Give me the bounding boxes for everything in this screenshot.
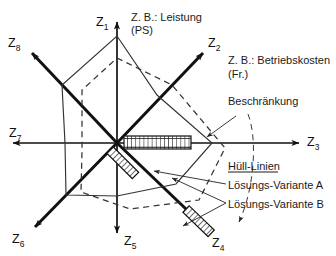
svg-text:Z6: Z6	[12, 232, 25, 249]
leader-beschraenkung	[207, 116, 236, 137]
svg-text:Z7: Z7	[9, 126, 22, 143]
axis-sub-z1: 1	[104, 22, 109, 32]
axis-sub-z3: 3	[315, 142, 320, 152]
annotation-huell-linien: Hüll-Linien	[228, 160, 280, 172]
annotation-variante-a: Lösungs-Variante A	[228, 179, 324, 191]
svg-text:Z3: Z3	[307, 135, 320, 152]
star-diagram-figure: Z1 Z2 Z3 Z4 Z5 Z6 Z7 Z8 Z. B.: Leistung …	[0, 0, 336, 256]
leader-variante-a	[154, 171, 226, 184]
annotation-variante-b: Lösungs-Variante B	[228, 198, 324, 210]
axis-labels: Z1 Z2 Z3 Z4 Z5 Z6 Z7 Z8	[8, 15, 320, 253]
axis-sub-z8: 8	[16, 43, 21, 53]
axis-sub-z6: 6	[20, 239, 25, 249]
annotation-leistung-line2: (PS)	[131, 24, 153, 36]
svg-text:Z8: Z8	[8, 36, 21, 53]
diagram-canvas: Z1 Z2 Z3 Z4 Z5 Z6 Z7 Z8 Z. B.: Leistung …	[0, 0, 336, 256]
constraint-bar-z6	[107, 147, 139, 179]
annotations: Z. B.: Leistung (PS) Z. B.: Betriebskost…	[131, 11, 330, 210]
axis-sub-z5: 5	[132, 241, 137, 251]
axis-sub-z7: 7	[17, 133, 22, 143]
svg-text:Z4: Z4	[212, 236, 225, 253]
annotation-betriebskosten-line2: (Fr.)	[228, 68, 248, 80]
axis-sub-z4: 4	[220, 243, 225, 253]
annotation-leistung-line1: Z. B.: Leistung	[131, 11, 202, 23]
annotation-betriebskosten-line1: Z. B.: Betriebskosten	[228, 54, 330, 66]
annotation-beschraenkung: Beschränkung	[228, 95, 298, 107]
svg-text:Z5: Z5	[124, 234, 137, 251]
constraint-bar-z4	[183, 206, 214, 237]
hull-line-variante-b	[81, 58, 225, 209]
svg-text:Z1: Z1	[96, 15, 109, 32]
axis-z6	[35, 143, 117, 227]
svg-text:Z2: Z2	[208, 36, 221, 53]
constraint-bar-z3	[124, 136, 191, 149]
axis-sub-z2: 2	[216, 43, 221, 53]
axis-z8	[32, 53, 117, 143]
